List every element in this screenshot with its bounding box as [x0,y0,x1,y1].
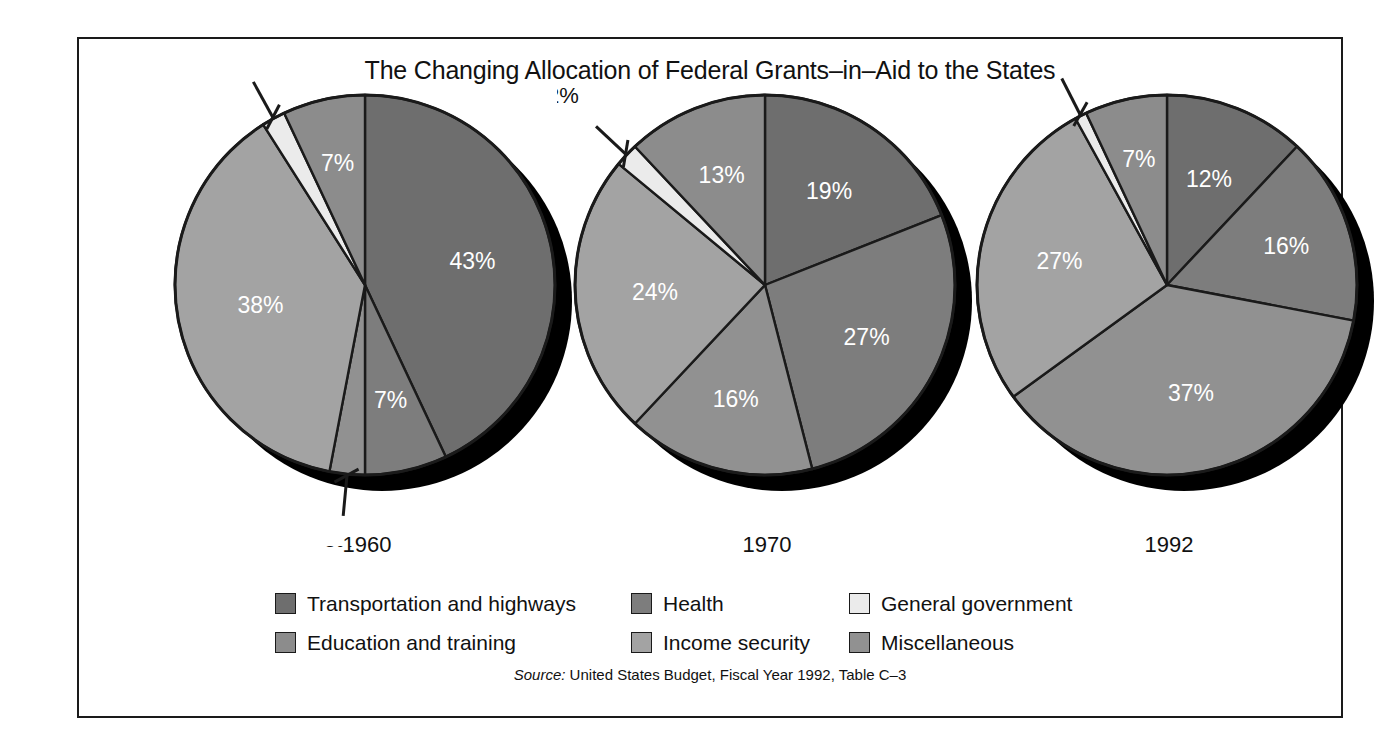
slice-label: 7% [1122,146,1155,172]
legend-swatch-icon [849,632,870,653]
pie-year-label: 1970 [557,532,977,558]
chart-frame: The Changing Allocation of Federal Grant… [77,37,1343,718]
slice-label: 37% [1168,380,1214,406]
legend-item-education-and-training[interactable]: Education and training [275,631,631,655]
slice-label: 27% [1036,248,1082,274]
legend-swatch-icon [631,632,652,653]
legend-label: Health [663,592,724,616]
pie-svg-1992: 12%16%37%27%1%7% [959,77,1379,547]
legend-item-income-security[interactable]: Income security [631,631,849,655]
source-note: Source: United States Budget, Fiscal Yea… [79,666,1341,683]
slice-label: 19% [806,178,852,204]
source-text: United States Budget, Fiscal Year 1992, … [565,666,906,683]
legend-swatch-icon [631,593,652,614]
callout-leader-line [596,126,626,155]
slice-label: 13% [699,162,745,188]
pie-year-label: 1992 [959,532,1379,558]
legend-row: Education and trainingIncome securityMis… [79,623,1341,662]
pie-chart-1992: 12%16%37%27%1%7%1992 [959,77,1379,547]
legend-label: Income security [663,631,810,655]
legend-swatch-icon [849,593,870,614]
slice-label: 16% [1263,233,1309,259]
pie-chart-1970: 19%27%16%24%2%13%1970 [557,77,977,547]
pie-year-label: 1960 [157,532,577,558]
slice-label: 16% [713,386,759,412]
slice-label: 24% [632,279,678,305]
pie-chart-1960: 43%7%3%38%2%7%1960 [157,77,577,547]
callout-leader-line [253,82,273,119]
legend-item-general-government[interactable]: General government [849,592,1072,616]
slice-label: 2% [557,83,579,108]
legend-label: Transportation and highways [307,592,576,616]
legend-label: Education and training [307,631,516,655]
legend-row: Transportation and highwaysHealthGeneral… [79,584,1341,623]
chart-legend: Transportation and highwaysHealthGeneral… [79,584,1341,662]
slice-label: 7% [374,387,407,413]
legend-label: General government [881,592,1072,616]
chart-page: The Changing Allocation of Federal Grant… [0,0,1389,754]
legend-item-transportation-and-highways[interactable]: Transportation and highways [275,592,631,616]
slice-label: 12% [1186,166,1232,192]
legend-item-health[interactable]: Health [631,592,849,616]
legend-label: Miscellaneous [881,631,1014,655]
slice-label: 38% [237,292,283,318]
pie-svg-1960: 43%7%3%38%2%7% [157,77,577,547]
slice-label: 7% [321,150,354,176]
legend-swatch-icon [275,593,296,614]
callout-leader-line [1062,78,1081,115]
slice-label: 27% [844,324,890,350]
legend-swatch-icon [275,632,296,653]
pie-svg-1970: 19%27%16%24%2%13% [557,77,977,547]
source-label: Source: [514,666,566,683]
slice-label: 43% [450,248,496,274]
legend-item-miscellaneous[interactable]: Miscellaneous [849,631,1014,655]
